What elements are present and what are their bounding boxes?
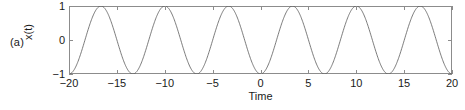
y-tick-label: 0 xyxy=(59,35,65,46)
x-tick-mark xyxy=(261,6,262,10)
x-tick-label: 15 xyxy=(398,78,410,89)
x-tick-label: −20 xyxy=(60,78,79,89)
x-tick-label: 10 xyxy=(350,78,362,89)
x-tick-mark xyxy=(452,6,453,10)
x-tick-mark xyxy=(452,70,453,74)
waveform-curve xyxy=(69,6,452,74)
x-tick-label: 5 xyxy=(305,78,311,89)
x-tick-label: −5 xyxy=(206,78,219,89)
x-tick-mark xyxy=(117,70,118,74)
x-axis-label: Time xyxy=(69,90,452,102)
x-tick-mark xyxy=(213,70,214,74)
y-tick-mark xyxy=(69,74,73,75)
y-tick-label: 1 xyxy=(59,1,65,12)
y-tick-mark xyxy=(448,74,452,75)
x-tick-mark xyxy=(261,70,262,74)
x-tick-mark xyxy=(404,6,405,10)
x-tick-mark xyxy=(117,6,118,10)
x-tick-mark xyxy=(165,70,166,74)
x-tick-mark xyxy=(356,6,357,10)
x-tick-mark xyxy=(356,70,357,74)
x-tick-label: −10 xyxy=(155,78,174,89)
figure-panel-a: (a) x(t) −101 −20−15−10−505101520 Time xyxy=(0,0,465,110)
x-tick-mark xyxy=(404,70,405,74)
x-tick-mark xyxy=(165,6,166,10)
x-tick-label: 0 xyxy=(257,78,263,89)
x-tick-mark xyxy=(69,70,70,74)
x-tick-label: 20 xyxy=(446,78,458,89)
x-tick-mark xyxy=(213,6,214,10)
plot-area: −101 −20−15−10−505101520 xyxy=(69,6,452,74)
y-axis-label: x(t) xyxy=(22,0,34,66)
x-tick-mark xyxy=(308,70,309,74)
y-tick-mark xyxy=(69,40,73,41)
x-tick-mark xyxy=(69,6,70,10)
x-tick-label: −15 xyxy=(108,78,127,89)
x-tick-mark xyxy=(308,6,309,10)
y-tick-mark xyxy=(448,40,452,41)
